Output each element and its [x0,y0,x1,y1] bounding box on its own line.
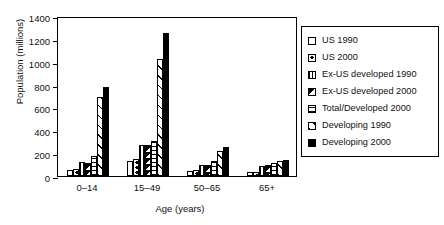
chart-legend: US 1990US 2000Ex-US developed 1990Ex-US … [301,26,439,157]
y-axis-tick [53,18,58,19]
y-axis-tick-label: 1000 [29,58,50,69]
x-axis-tick-label: 15–49 [134,182,160,193]
y-axis-tick [53,64,58,65]
y-axis-tick [53,109,58,110]
legend-item-label: Total/Developed 2000 [322,104,411,113]
legend-swatch-icon [308,122,316,130]
y-axis-tick-label: 0 [45,173,50,184]
legend-item-label: Ex-US developed 1990 [322,70,417,79]
legend-item-label: Ex-US developed 2000 [322,87,417,96]
bar [283,160,289,176]
bar [163,33,169,176]
legend-item[interactable]: Ex-US developed 2000 [308,83,434,100]
y-axis-tick-label: 400 [34,127,50,138]
legend-swatch-icon [308,88,316,96]
legend-item-label: Developing 1990 [322,121,391,130]
legend-item[interactable]: Ex-US developed 1990 [308,66,434,83]
y-axis-tick [53,87,58,88]
plot-area: 0200400600800100012001400 [57,17,297,177]
legend-swatch-icon [308,71,316,79]
y-axis-tick [53,155,58,156]
legend-item[interactable]: Total/Developed 2000 [308,100,434,117]
legend-item-label: US 1990 [322,36,358,45]
bars-layer [58,18,296,176]
x-axis-tick-label: 50–65 [194,182,220,193]
y-axis-tick-label: 800 [34,81,50,92]
x-axis-tick-label: 0–14 [76,182,97,193]
bar-group [238,18,298,176]
bar-group [58,18,118,176]
legend-item-label: US 2000 [322,53,358,62]
legend-item[interactable]: Developing 2000 [308,134,434,151]
y-axis-label: Population (millions) [14,0,25,132]
legend-swatch-icon [308,54,316,62]
legend-item[interactable]: Developing 1990 [308,117,434,134]
legend-item-label: Developing 2000 [322,138,391,147]
y-axis-tick-label: 1400 [29,13,50,24]
y-axis-tick [53,41,58,42]
bar [223,147,229,176]
legend-swatch-icon [308,37,316,45]
y-axis-tick-label: 1200 [29,35,50,46]
y-axis-tick [53,132,58,133]
bar [103,87,109,176]
x-axis-tick-label: 65+ [259,182,275,193]
legend-swatch-icon [308,105,316,113]
bar-group [118,18,178,176]
chart-figure: Population (millions) Age (years) 020040… [0,0,444,225]
x-axis-label: Age (years) [55,203,305,214]
legend-item[interactable]: US 1990 [308,32,434,49]
y-axis-tick-label: 200 [34,150,50,161]
bar-group [178,18,238,176]
legend-item[interactable]: US 2000 [308,49,434,66]
y-axis-tick-label: 600 [34,104,50,115]
y-axis-tick [53,178,58,179]
legend-swatch-icon [308,139,316,147]
